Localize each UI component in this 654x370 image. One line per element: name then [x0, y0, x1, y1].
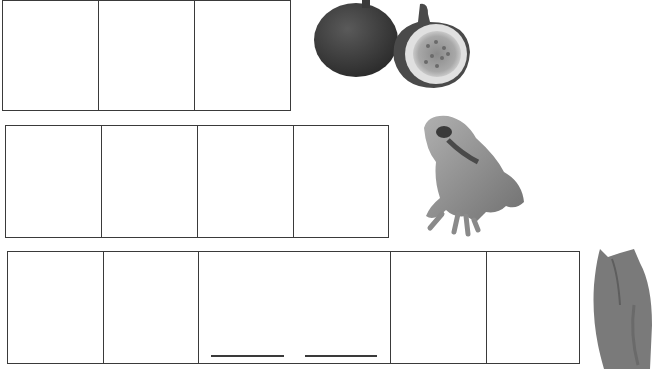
letter-box[interactable] — [102, 126, 198, 237]
letter-box[interactable] — [195, 1, 290, 110]
fig-picture-icon — [310, 0, 475, 95]
underline-blank[interactable] — [305, 355, 377, 357]
letter-box-row-3 — [7, 251, 580, 364]
jacket-picture-icon — [590, 245, 654, 370]
letter-box[interactable] — [8, 252, 104, 363]
letter-box[interactable] — [198, 126, 294, 237]
letter-box[interactable] — [104, 252, 199, 363]
letter-box-wide[interactable] — [199, 252, 391, 363]
frog-picture-icon — [418, 110, 530, 240]
letter-box[interactable] — [487, 252, 579, 363]
letter-box[interactable] — [6, 126, 102, 237]
letter-box[interactable] — [99, 1, 195, 110]
underline-blank[interactable] — [211, 355, 284, 357]
letter-box[interactable] — [391, 252, 487, 363]
letter-box-row-1 — [2, 0, 291, 111]
letter-box-row-2 — [5, 125, 389, 238]
letter-box[interactable] — [3, 1, 99, 110]
letter-box[interactable] — [294, 126, 388, 237]
